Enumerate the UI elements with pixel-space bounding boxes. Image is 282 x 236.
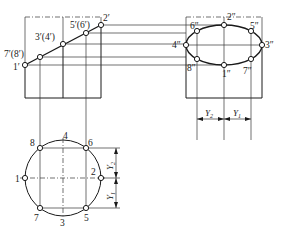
label-4-side: 4″ (172, 40, 181, 50)
label-7-side: 7″ (243, 66, 252, 76)
label-4-top: 4 (63, 131, 68, 141)
label-3-4-front: 3′(4′) (35, 32, 55, 43)
point-5-top (83, 205, 88, 210)
label-3-side: 3″ (265, 40, 274, 50)
point-7-top (37, 205, 42, 210)
label-7-8-front: 7′(8′) (4, 49, 24, 60)
point-2-top (98, 175, 103, 180)
label-2-front: 2′ (103, 13, 110, 23)
label-2-side: 2″ (227, 12, 236, 22)
point-2-front (98, 22, 103, 27)
label-5-6-front: 5′(6′) (70, 20, 90, 31)
point-7-side (248, 56, 253, 61)
top-view (20, 138, 120, 218)
point-1-front (22, 62, 27, 67)
dim-y1-side: Y1 (233, 108, 241, 119)
dim-y2-top: Y2 (105, 162, 116, 170)
point-1-side (221, 62, 226, 67)
point-5-6-front (83, 30, 88, 35)
label-8-top: 8 (30, 138, 35, 148)
label-5-side: 5″ (250, 21, 259, 31)
label-6-top: 6 (88, 138, 93, 148)
label-3-top: 3 (60, 218, 65, 228)
label-2-top: 2 (91, 167, 96, 177)
point-8-side (194, 56, 199, 61)
label-1-side: 1″ (222, 69, 231, 79)
point-2-side (221, 22, 226, 27)
point-7-8-front (37, 54, 42, 59)
point-8-top (37, 145, 42, 150)
label-7-top: 7 (34, 213, 39, 223)
point-4-side (183, 42, 188, 47)
label-8-side: 8″ (187, 63, 196, 73)
label-5-top: 5 (84, 213, 89, 223)
dim-y2-side: Y2 (205, 108, 213, 119)
label-1-top: 1 (15, 174, 20, 184)
point-1-top (22, 175, 27, 180)
point-3-4-front (60, 41, 65, 46)
label-1-front: 1′ (13, 62, 20, 72)
label-6-side: 6″ (190, 21, 199, 31)
dim-y1-top: Y1 (105, 192, 116, 200)
projection-diagram: 1′ 7′(8′) 3′(4′) 5′(6′) 2′ 6″ 2″ 5″ 4″ 3… (0, 0, 282, 236)
point-3-side (259, 42, 264, 47)
